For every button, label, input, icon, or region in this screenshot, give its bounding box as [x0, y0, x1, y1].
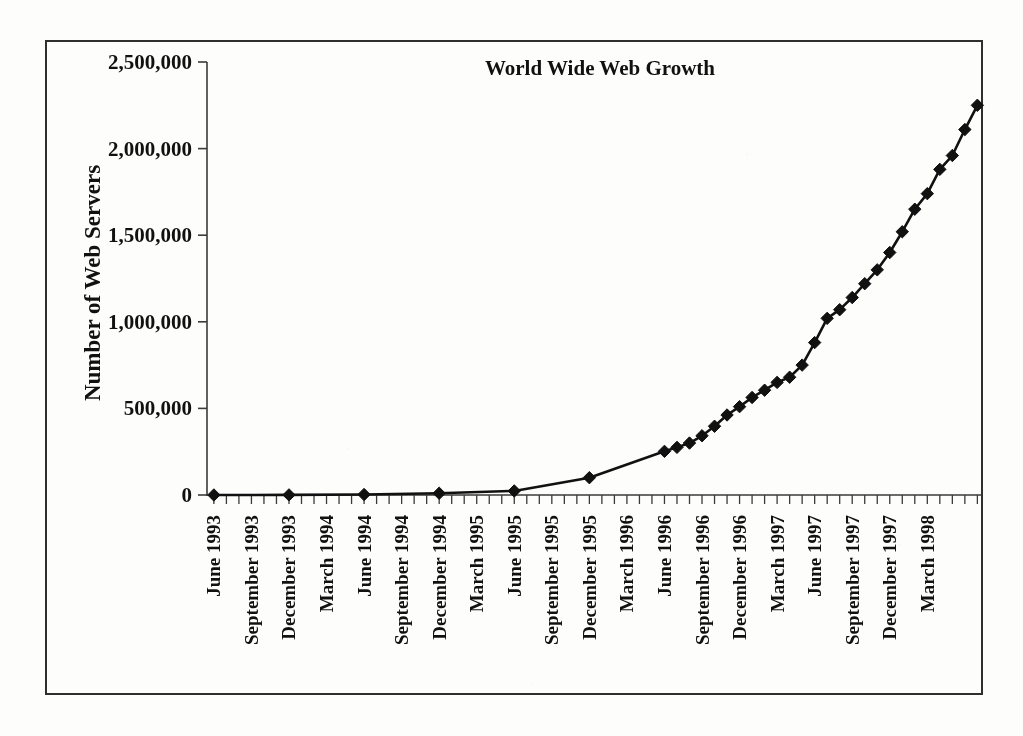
y-tick-label: 1,500,000: [108, 223, 192, 247]
y-tick-label: 1,000,000: [108, 310, 192, 334]
x-tick-label: June 1995: [504, 515, 525, 597]
x-tick-label: September 1995: [541, 515, 562, 645]
y-tick-label: 500,000: [124, 396, 192, 420]
data-point-marker: [583, 471, 595, 483]
y-tick-label: 2,000,000: [108, 137, 192, 161]
chart-title: World Wide Web Growth: [485, 56, 715, 80]
x-tick-label: December 1997: [879, 515, 900, 640]
y-tick-label: 2,500,000: [108, 50, 192, 74]
x-tick-label: March 1996: [616, 515, 637, 612]
data-point-marker: [758, 384, 770, 396]
x-tick-label: March 1995: [466, 515, 487, 612]
data-series-line: [214, 105, 977, 495]
data-point-marker: [283, 489, 295, 501]
x-tick-label: June 1994: [354, 515, 375, 597]
data-point-marker: [683, 437, 695, 449]
data-point-marker: [808, 336, 820, 348]
web-growth-line-chart: 0500,0001,000,0001,500,0002,000,0002,500…: [0, 0, 1023, 736]
x-tick-label: September 1997: [842, 515, 863, 645]
data-point-marker: [208, 489, 220, 501]
data-point-marker: [959, 123, 971, 135]
x-tick-label: September 1993: [241, 515, 262, 645]
x-tick-label: December 1994: [429, 515, 450, 640]
data-point-marker: [358, 488, 370, 500]
figure-page: 0500,0001,000,0001,500,0002,000,0002,500…: [0, 0, 1023, 736]
x-tick-label: June 1997: [804, 515, 825, 597]
data-point-marker: [433, 487, 445, 499]
x-tick-label: March 1998: [917, 515, 938, 612]
data-point-marker: [658, 445, 670, 457]
y-tick-label: 0: [182, 483, 193, 507]
x-tick-label: June 1996: [654, 515, 675, 597]
x-tick-label: December 1996: [729, 515, 750, 640]
x-tick-label: September 1994: [391, 515, 412, 645]
x-tick-label: March 1997: [767, 515, 788, 613]
x-tick-label: June 1993: [203, 515, 224, 597]
data-point-marker: [896, 226, 908, 238]
y-axis-title: Number of Web Servers: [80, 165, 105, 401]
x-tick-label: March 1994: [316, 515, 337, 613]
x-tick-label: September 1996: [692, 515, 713, 645]
data-point-marker: [971, 99, 983, 111]
data-point-marker: [771, 376, 783, 388]
data-point-marker: [671, 441, 683, 453]
x-tick-label: December 1995: [579, 515, 600, 640]
x-tick-label: December 1993: [278, 515, 299, 640]
